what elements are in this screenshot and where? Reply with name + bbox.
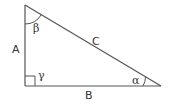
alpha-label: α (132, 74, 140, 87)
right-triangle-diagram: A B C β γ α (0, 0, 169, 105)
side-a-label: A (12, 43, 20, 56)
alpha-angle-arc (143, 77, 146, 86)
side-b-label: B (85, 89, 93, 102)
right-angle-marker (25, 76, 35, 86)
side-c-label: C (92, 35, 100, 48)
gamma-label: γ (38, 69, 45, 82)
beta-label: β (33, 22, 39, 35)
